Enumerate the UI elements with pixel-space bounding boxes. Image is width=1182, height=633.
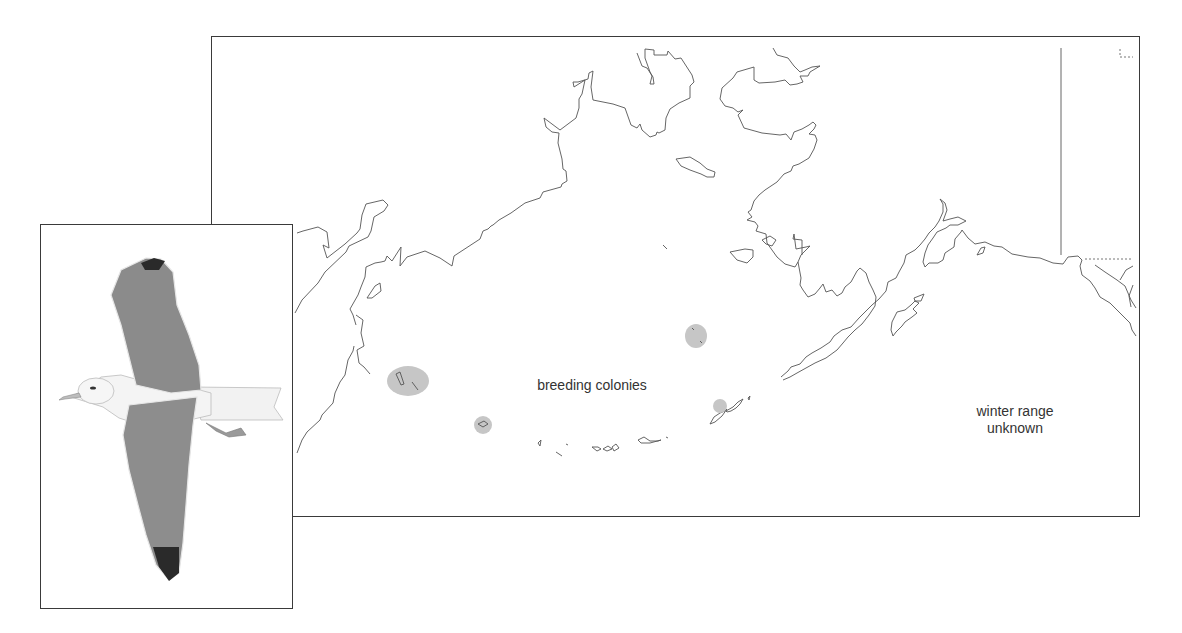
aleutian-rat-islands: [592, 444, 619, 451]
coastline-alaska-peninsula-north: [783, 268, 876, 380]
island-pribilof-st-paul: [663, 245, 667, 249]
island-kayak: [977, 247, 985, 255]
gull-eye: [90, 386, 96, 389]
island-karaginsky: [367, 283, 381, 298]
coastline-alaska-west: [720, 48, 820, 267]
aleutian-near-islands: [538, 440, 568, 456]
canada-border-north: [1120, 49, 1133, 57]
label-winter-range-line1: winter range: [965, 403, 1065, 420]
label-breeding-colonies: breeding colonies: [528, 377, 656, 394]
island-nelson: [762, 236, 776, 246]
gull-head: [78, 378, 114, 404]
label-winter-range: winter range unknown: [965, 403, 1065, 437]
coastline-southeast-alaska: [1082, 275, 1136, 336]
label-winter-range-line2: unknown: [965, 420, 1065, 437]
aleutian-andreanof-islands: [638, 437, 668, 443]
gull-feet: [206, 423, 246, 437]
colony-commander-islands: [387, 366, 429, 396]
island-st-lawrence: [676, 157, 715, 177]
island-nunivak: [730, 249, 753, 263]
coastline-chukotka: [356, 315, 370, 374]
gull-upper-wing: [111, 258, 201, 393]
coastline-bristol-bay: [798, 262, 860, 297]
colony-pribilof-islands: [685, 324, 707, 348]
island-kodiak: [891, 301, 919, 336]
colony-bogoslof: [713, 399, 727, 413]
coastline-alaska-peninsula: [781, 199, 1082, 377]
island-afognak: [914, 294, 924, 301]
coastline-kamchatka: [350, 49, 694, 325]
gull-illustration: [41, 225, 293, 609]
coastline-alexander-archipelago: [1095, 265, 1136, 308]
species-illustration-inset: [40, 224, 293, 609]
coastline-kamchatka-south: [297, 346, 354, 453]
colony-near-islands: [474, 416, 492, 434]
